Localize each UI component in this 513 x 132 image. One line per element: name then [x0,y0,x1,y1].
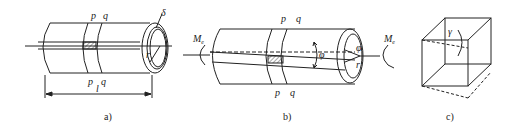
label-a-length: l [96,83,99,94]
label-a-q-top: q [103,10,108,21]
figure-c-cube [422,18,491,98]
label-a-radius: r [146,49,150,60]
label-b-p-top: p [280,13,286,24]
torsion-diagram: p q p q l r δ a) p q p q Me Me φ φ r b) … [0,0,513,132]
label-a-p-top: p [90,10,96,21]
caption-b: b) [283,111,291,123]
caption-c: c) [446,111,454,123]
label-b-end-angle: φ [356,42,362,53]
label-b-q-top: q [296,13,301,24]
label-b-q-bottom: q [290,87,295,98]
figure-b-tube [183,29,394,84]
label-b-torque-left: Me [192,33,204,45]
label-b-radius: r [356,59,360,70]
label-b-torque-right: Me [383,33,395,45]
label-c-gamma: γ [448,26,453,37]
label-b-p-bottom: p [274,87,280,98]
label-a-thickness: δ [161,7,166,18]
label-a-p-bottom: p [87,76,93,87]
label-b-twist-angle: φ [319,49,325,60]
caption-a: a) [104,111,112,123]
label-a-q-bottom: q [101,76,106,87]
